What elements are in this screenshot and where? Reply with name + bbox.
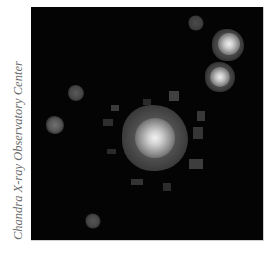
noise-pixel [107,149,116,154]
left-faint-source-a [68,85,84,101]
upper-right-source-a [218,33,240,55]
noise-pixel [163,183,171,191]
noise-pixel [197,111,205,121]
central-bright-source [135,118,175,158]
noise-pixel [111,105,119,111]
noise-pixel [189,159,203,169]
noise-pixel [193,127,203,139]
top-faint-source [189,16,204,31]
image-credit: Chandra X-ray Observatory Center [12,61,25,240]
bottom-faint-source [86,214,101,229]
noise-pixel [131,179,143,185]
noise-pixel [169,91,179,101]
noise-pixel [103,119,113,126]
upper-right-source-b [210,67,230,87]
xray-image [31,7,264,241]
left-faint-source-b [46,116,64,134]
